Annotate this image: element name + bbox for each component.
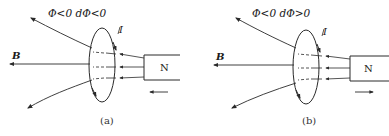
panel-b: Φ<0 dΦ>0 B I N (b) (214, 7, 389, 126)
magnet-label-a: N (160, 62, 169, 73)
magnet-field-lines-a (93, 52, 144, 79)
field-line-upper-b (236, 18, 296, 48)
magnet-label-b: N (364, 63, 373, 74)
panel-a: Φ<0 dΦ<0 B I N (10, 7, 180, 126)
induction-diagram: Φ<0 dΦ<0 B I N (0, 0, 389, 136)
b-label-b: B (215, 51, 224, 62)
condition-label-b: Φ<0 dΦ>0 (252, 7, 311, 19)
caption-a: (a) (100, 115, 114, 126)
b-label-a: B (11, 50, 20, 61)
field-line-upper-a (31, 18, 92, 48)
caption-b: (b) (302, 115, 316, 126)
field-line-lower-b (232, 83, 296, 108)
magnet-a: N (144, 55, 180, 80)
current-label-a: I (118, 24, 124, 35)
current-label-b: I (322, 26, 328, 37)
magnet-b: N (350, 56, 389, 81)
condition-label-a: Φ<0 dΦ<0 (48, 7, 107, 19)
magnet-field-lines-b (298, 54, 350, 80)
field-line-lower-a (28, 80, 92, 108)
